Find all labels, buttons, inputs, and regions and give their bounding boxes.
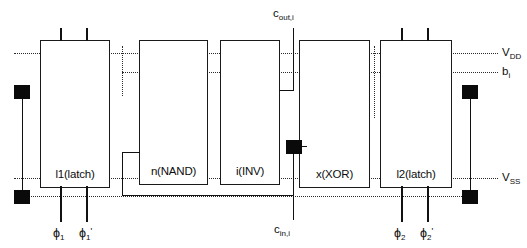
- right-lower-contact: [462, 190, 478, 204]
- phi2-label: ϕ2: [394, 226, 405, 240]
- carry-in-contact: [286, 140, 302, 154]
- left-upper-contact: [14, 85, 30, 99]
- phi2-prime-label: ϕ2': [420, 226, 433, 240]
- phi1-prime-pin: [86, 186, 88, 222]
- phi2-pin: [401, 186, 403, 222]
- block-inv[interactable]: i(INV): [220, 40, 280, 185]
- bi-label: bi: [502, 65, 510, 77]
- phi2-label-sub: 2: [401, 233, 405, 242]
- circuit-diagram: l1(latch) n(NAND) i(INV) x(XOR) l2(latch…: [0, 0, 527, 248]
- vss-label: VSS: [502, 171, 520, 183]
- carry-in-label: cin,i: [274, 223, 290, 235]
- l2-top-pin-a: [401, 28, 403, 41]
- block-l1-latch-label: l1(latch): [41, 168, 109, 180]
- phi1-prime-label-prime: ': [90, 226, 92, 236]
- block-l1-latch[interactable]: l1(latch): [40, 40, 110, 188]
- phi1-label: ϕ1: [53, 226, 64, 240]
- carry-out-wire-vertical: [293, 28, 294, 91]
- phi1-prime-label-glyph: ϕ: [79, 226, 86, 240]
- block-xor[interactable]: x(XOR): [299, 40, 370, 188]
- right-contact-strap: [470, 92, 471, 198]
- left-lower-contact: [14, 190, 30, 204]
- phi1-label-sub: 1: [60, 233, 64, 242]
- l1-top-pin-a: [60, 28, 62, 41]
- phi1-prime-label: ϕ1': [79, 226, 92, 240]
- phi2-label-glyph: ϕ: [394, 226, 401, 240]
- l1-top-pin-b: [86, 28, 88, 41]
- block-nand-label: n(NAND): [140, 165, 207, 177]
- vrail-xor-l2: [374, 46, 375, 118]
- nand-feedback-bottom-run: [122, 195, 294, 196]
- carry-in-label-main: c: [274, 223, 280, 235]
- block-l2-latch[interactable]: l2(latch): [380, 40, 452, 188]
- vdd-label-sub: DD: [510, 52, 522, 61]
- l2-top-pin-b: [427, 28, 429, 41]
- phi2-prime-label-glyph: ϕ: [420, 226, 427, 240]
- carry-in-label-sub: in,i: [280, 229, 290, 238]
- block-xor-label: x(XOR): [300, 168, 369, 180]
- vrail-l1-nand: [122, 46, 123, 96]
- carry-out-label: cout,i: [273, 7, 294, 19]
- bi-label-sub: i: [508, 71, 510, 80]
- block-l2-latch-label: l2(latch): [381, 168, 451, 180]
- vss-label-main: V: [502, 171, 510, 183]
- phi1-label-glyph: ϕ: [53, 226, 60, 240]
- phi1-pin: [60, 186, 62, 222]
- nand-feedback-drop: [122, 152, 123, 196]
- vdd-label: VDD: [502, 46, 521, 58]
- vdd-label-main: V: [502, 46, 510, 58]
- substrate-rail: [14, 196, 476, 197]
- phi2-prime-pin: [427, 186, 429, 222]
- right-upper-contact: [462, 85, 478, 99]
- nand-feedback-top-segment: [122, 152, 140, 153]
- block-nand[interactable]: n(NAND): [139, 40, 208, 185]
- carry-out-label-main: c: [273, 7, 279, 19]
- carry-out-label-sub: out,i: [279, 13, 294, 22]
- carry-out-wire-jog: [279, 90, 294, 91]
- block-inv-label: i(INV): [221, 165, 279, 177]
- nand-feedback-riser: [293, 154, 294, 196]
- phi2-prime-label-prime: ': [431, 226, 433, 236]
- vss-label-sub: SS: [510, 177, 521, 186]
- left-contact-strap: [22, 92, 23, 198]
